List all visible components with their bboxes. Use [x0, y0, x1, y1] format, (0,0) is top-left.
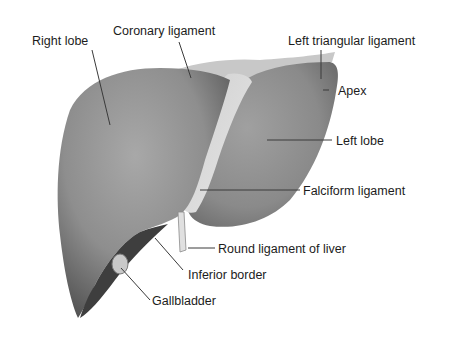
liver-diagram: Right lobe Coronary ligament Left triang…	[0, 0, 462, 337]
label-gallbladder: Gallbladder	[152, 294, 216, 308]
round-ligament-shape	[178, 212, 186, 252]
label-right-lobe: Right lobe	[32, 34, 88, 48]
label-apex: Apex	[338, 84, 367, 98]
label-left-triangular-ligament: Left triangular ligament	[288, 34, 415, 48]
liver-illustration	[0, 0, 462, 337]
label-round-ligament: Round ligament of liver	[218, 242, 346, 256]
label-falciform-ligament: Falciform ligament	[303, 184, 405, 198]
label-inferior-border: Inferior border	[188, 268, 267, 282]
label-left-lobe: Left lobe	[336, 134, 384, 148]
gallbladder-shape	[112, 254, 128, 274]
label-coronary-ligament: Coronary ligament	[113, 24, 215, 38]
